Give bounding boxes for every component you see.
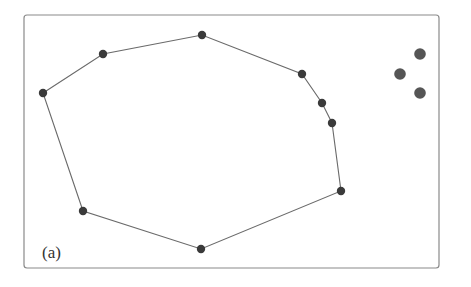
hull-vertex (328, 119, 336, 127)
convex-hull-diagram (0, 0, 471, 287)
hull-vertex (39, 89, 47, 97)
hull-vertex (298, 70, 306, 78)
hull-vertex (197, 245, 205, 253)
outlier-point (414, 87, 426, 99)
outlier-point (394, 68, 406, 80)
panel-frame (24, 15, 439, 268)
hull-polygon (43, 35, 341, 249)
hull-vertex (337, 187, 345, 195)
hull-vertex (318, 99, 326, 107)
outlier-points (394, 48, 426, 99)
panel-label: (a) (42, 243, 61, 263)
hull-vertex (99, 50, 107, 58)
outlier-point (414, 48, 426, 60)
hull-vertex (79, 207, 87, 215)
hull-vertices (39, 31, 345, 253)
hull-vertex (198, 31, 206, 39)
